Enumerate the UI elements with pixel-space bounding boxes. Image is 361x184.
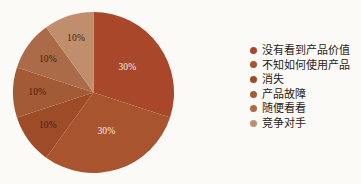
pie-slice-value-label: 30%	[97, 126, 115, 136]
legend-item-label: 没有看到产品价值	[262, 43, 350, 58]
legend-item-label: 不知如何使用产品	[262, 58, 350, 73]
legend-bullet-icon	[250, 47, 257, 54]
legend-bullet-icon	[250, 91, 257, 98]
legend-item[interactable]: 不知如何使用产品	[250, 58, 358, 73]
pie-chart-svg: 30%30%10%10%10%10%	[12, 11, 175, 174]
legend-item-label: 消失	[262, 72, 284, 87]
pie-slice-value-label: 10%	[39, 54, 57, 64]
legend-item[interactable]: 消失	[250, 72, 358, 87]
legend-item[interactable]: 竞争对手	[250, 116, 358, 131]
legend-item-label: 竞争对手	[262, 116, 306, 131]
legend-bullet-icon	[250, 120, 257, 127]
legend-item-label: 产品故障	[262, 87, 306, 102]
legend-bullet-icon	[250, 61, 257, 68]
pie-chart-plot-area: 30%30%10%10%10%10%	[12, 11, 175, 174]
legend-bullet-icon	[250, 76, 257, 83]
pie-slice-value-label: 10%	[67, 33, 85, 43]
pie-chart-figure: 30%30%10%10%10%10% 没有看到产品价值不知如何使用产品消失产品故…	[0, 0, 361, 184]
pie-slice-value-label: 30%	[118, 62, 136, 72]
pie-slice-value-label: 10%	[28, 87, 46, 97]
pie-slice-value-label: 10%	[39, 120, 57, 130]
legend-item-label: 随便看看	[262, 101, 306, 116]
chart-legend: 没有看到产品价值不知如何使用产品消失产品故障随便看看竞争对手	[250, 43, 358, 131]
legend-item[interactable]: 产品故障	[250, 87, 358, 102]
legend-bullet-icon	[250, 105, 257, 112]
legend-item[interactable]: 没有看到产品价值	[250, 43, 358, 58]
legend-item[interactable]: 随便看看	[250, 101, 358, 116]
